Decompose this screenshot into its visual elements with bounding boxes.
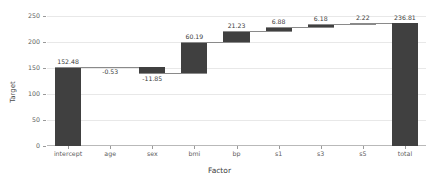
y-tick-label: 200	[28, 39, 40, 45]
x-tick-mark	[68, 146, 69, 149]
x-tick-mark	[279, 146, 280, 149]
y-tick-mark	[43, 16, 46, 17]
bar-value-label: -11.85	[142, 76, 162, 82]
bar-value-label: 236.81	[394, 15, 416, 21]
x-tick-label-bmi: bmi	[188, 151, 200, 157]
x-tick-mark	[152, 146, 153, 149]
x-axis-title: Factor	[0, 166, 439, 175]
x-tick-mark	[110, 146, 111, 149]
bar-value-label: -0.53	[102, 69, 118, 75]
y-axis-title: Target	[9, 81, 17, 103]
plot-area	[47, 16, 426, 146]
x-axis-ticks: interceptagesexbmibps1s3s5total	[47, 146, 426, 166]
y-tick-mark	[43, 94, 46, 95]
x-tick-label-s3: s3	[317, 151, 324, 157]
bar-value-label: 6.18	[314, 16, 328, 22]
x-tick-mark	[321, 146, 322, 149]
waterfall-connector	[266, 27, 334, 28]
bar-value-label: 2.22	[356, 15, 370, 21]
gridline	[47, 120, 426, 121]
x-tick-mark	[237, 146, 238, 149]
y-tick-label: 100	[28, 91, 40, 97]
y-tick-label: 250	[28, 13, 40, 19]
x-tick-label-s1: s1	[275, 151, 282, 157]
x-tick-mark	[194, 146, 195, 149]
x-tick-mark	[405, 146, 406, 149]
y-tick-label: 0	[36, 143, 40, 149]
bar-total[interactable]	[392, 23, 418, 146]
x-tick-label-total: total	[398, 151, 412, 157]
y-tick-label: 50	[32, 117, 40, 123]
bar-intercept[interactable]	[55, 67, 81, 146]
x-tick-mark	[363, 146, 364, 149]
y-tick-mark	[43, 42, 46, 43]
bar-value-label: 152.48	[57, 59, 79, 65]
y-tick-mark	[43, 68, 46, 69]
waterfall-connector	[223, 31, 291, 32]
gridline	[47, 94, 426, 95]
y-tick-label: 150	[28, 65, 40, 71]
y-tick-mark	[43, 120, 46, 121]
y-tick-mark	[43, 146, 46, 147]
bar-value-label: 60.19	[186, 34, 204, 40]
bar-value-label: 6.88	[272, 19, 286, 25]
waterfall-connector	[181, 42, 249, 43]
bar-bp[interactable]	[223, 31, 249, 42]
x-tick-label-age: age	[104, 151, 116, 157]
x-tick-label-intercept: intercept	[54, 151, 82, 157]
x-tick-label-sex: sex	[147, 151, 158, 157]
x-tick-label-bp: bp	[233, 151, 241, 157]
bar-bmi[interactable]	[181, 42, 207, 73]
x-tick-label-s5: s5	[359, 151, 366, 157]
bar-value-label: 21.23	[228, 23, 246, 29]
waterfall-chart: Target interceptagesexbmibps1s3s5total F…	[0, 0, 439, 183]
